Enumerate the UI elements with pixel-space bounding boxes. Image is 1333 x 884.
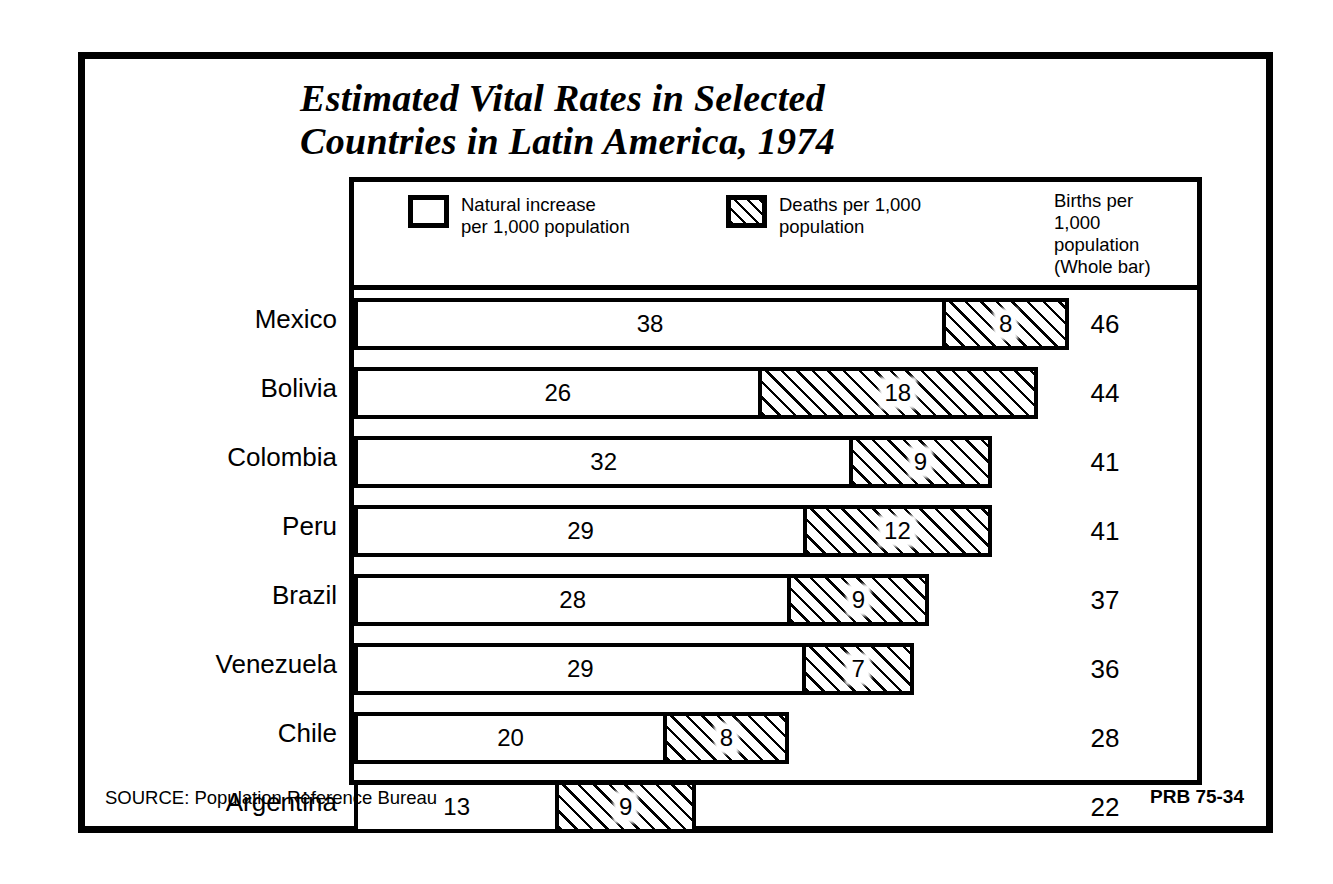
legend-label-births-total: Births per 1,000 population (Whole bar) [1054,190,1151,278]
title-line-2: Countries in Latin America, 1974 [300,120,1170,163]
bar-total-births: 46 [1070,298,1140,350]
bar-segment-natural-increase: 28 [358,578,787,622]
stacked-bar: 297 [354,643,914,695]
bar-segment-natural-increase: 29 [358,647,802,691]
bar-value-natural-increase: 20 [494,725,527,751]
title-line-1: Estimated Vital Rates in Selected [300,77,1170,120]
country-label: Chile [87,707,337,759]
bar-segment-deaths: 12 [803,509,987,553]
legend-label-deaths: Deaths per 1,000 population [779,194,921,238]
bar-total-births: 37 [1070,574,1140,626]
bar-segment-deaths: 7 [802,647,909,691]
open-square-icon [408,195,449,228]
legend-item-deaths: Deaths per 1,000 population [726,194,921,238]
bar-row: 291241 [354,505,1197,557]
bar-row: 38846 [354,298,1197,350]
bar-value-natural-increase: 28 [556,587,589,613]
chart-legend: Natural increase per 1,000 population De… [354,182,1197,290]
poster-frame: Estimated Vital Rates in Selected Countr… [78,52,1273,833]
bar-value-natural-increase: 38 [634,311,667,337]
chart-footer: SOURCE: Population Reference Bureau PRB … [85,773,1266,826]
chart-frame: Natural increase per 1,000 population De… [349,177,1202,785]
bar-segment-deaths: 8 [942,302,1065,346]
bar-segment-deaths: 9 [849,440,987,484]
bar-segment-deaths: 9 [787,578,925,622]
bar-value-deaths: 9 [616,794,635,820]
country-label: Brazil [87,569,337,621]
bar-segment-deaths: 8 [663,716,785,760]
bar-total-births: 44 [1070,367,1140,419]
country-label: Mexico [87,293,337,345]
bar-value-deaths: 18 [882,380,915,406]
bar-value-deaths: 8 [717,725,736,751]
stacked-bar: 2618 [354,367,1038,419]
bar-value-deaths: 12 [881,518,914,544]
stacked-bar: 289 [354,574,929,626]
bar-row: 32941 [354,436,1197,488]
bar-segment-natural-increase: 38 [358,302,942,346]
stacked-bar: 2912 [354,505,992,557]
country-label: Peru [87,500,337,552]
page-title: Estimated Vital Rates in Selected Countr… [300,77,1170,163]
stacked-bar: 208 [354,712,789,764]
bar-value-natural-increase: 32 [587,449,620,475]
legend-label-natural-increase: Natural increase per 1,000 population [461,194,630,238]
bar-total-births: 41 [1070,436,1140,488]
bar-value-deaths: 9 [911,449,930,475]
bar-value-deaths: 7 [848,656,867,682]
bar-total-births: 41 [1070,505,1140,557]
bar-row: 261844 [354,367,1197,419]
bar-segment-natural-increase: 29 [358,509,803,553]
bar-total-births: 28 [1070,712,1140,764]
bar-segment-natural-increase: 26 [358,371,758,415]
country-label-column: MexicoBoliviaColombiaPeruBrazilVenezuela… [85,285,337,785]
legend-item-natural-increase: Natural increase per 1,000 population [408,194,630,238]
country-label: Bolivia [87,362,337,414]
bar-segment-natural-increase: 32 [358,440,849,484]
bar-row: 29736 [354,643,1197,695]
bar-total-births: 36 [1070,643,1140,695]
chart-plot-area: 3884626184432941291241289372973620828139… [354,290,1197,780]
hatched-square-icon [726,195,767,228]
bar-value-natural-increase: 13 [440,794,473,820]
source-credit: SOURCE: Population Reference Bureau [105,787,437,809]
bar-segment-natural-increase: 20 [358,716,663,760]
publication-code: PRB 75-34 [1150,786,1244,808]
bar-segment-deaths: 18 [758,371,1035,415]
bar-row: 28937 [354,574,1197,626]
stacked-bar: 388 [354,298,1069,350]
bar-value-natural-increase: 29 [564,656,597,682]
bar-value-natural-increase: 29 [564,518,597,544]
bar-value-natural-increase: 26 [541,380,574,406]
bar-value-deaths: 8 [996,311,1015,337]
bar-row: 20828 [354,712,1197,764]
bar-value-deaths: 9 [849,587,868,613]
country-label: Colombia [87,431,337,483]
stacked-bar: 329 [354,436,992,488]
country-label: Venezuela [87,638,337,690]
